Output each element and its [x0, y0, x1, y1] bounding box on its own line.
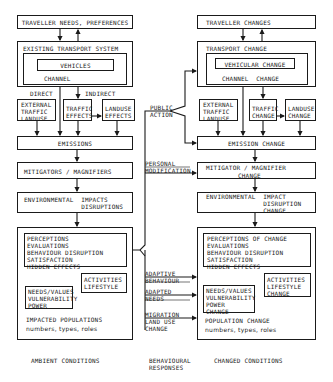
mitigator-change-label-2: CHANGE [238, 172, 261, 179]
right-external-traffic-landuse-box: EXTERNAL TRAFFIC LANDUSE [199, 99, 238, 121]
population-label: IMPACTED POPULATIONS [26, 316, 102, 323]
landuse-effects-box: LANDUSE EFFECTS [102, 99, 135, 121]
activities-change-label: ACTIVITIES LIFESTYLE CHANGE [267, 276, 305, 297]
mitigators-box: MITIGATORS / MAGNIFIERS [17, 162, 133, 179]
traveller-changes-box: TRAVELLER CHANGES [197, 15, 316, 29]
traffic-change-box: TRAFFIC CHANGE [249, 99, 277, 121]
adaptive-behaviour-label: ADAPTIVE BEHAVIOUR [145, 270, 179, 284]
needs-values-box: NEEDS/VALUES VULNERABILITY POWER [25, 286, 73, 309]
emission-change-box: EMISSION CHANGE [197, 136, 316, 150]
public-action-label: PUBLIC ACTION [150, 104, 173, 118]
population-change-box: PERCEPTIONS OF CHANGE EVALUATIONS BEHAVI… [197, 227, 316, 340]
existing-transport-title: EXISTING TRANSPORT SYSTEM [23, 45, 118, 52]
vehicles-label: VEHICLES [38, 62, 113, 69]
vehicular-change-label: VEHICULAR CHANGE [216, 61, 294, 68]
behavioural-responses-label: BEHAVIOURAL RESPONSES [149, 357, 191, 371]
mitigator-change-label: MITIGATOR / MAGNIFIER [206, 164, 286, 171]
environmental-impact-change-box: ENVIRONMENTAL IMPACT DISRUPTION CHANGE [197, 192, 316, 213]
landuse-effects-label: LANDUSE EFFECTS [105, 105, 132, 119]
perceptions-change-label: PERCEPTIONS OF CHANGE EVALUATIONS BEHAVI… [207, 235, 287, 270]
transport-change-box: TRANSPORT CHANGE VEHICULAR CHANGE CHANNE… [197, 41, 316, 87]
needs-values-change-label: NEEDS/VALUES VULNERABILITY POWER CHANGE [206, 287, 256, 315]
traffic-effects-label: TRAFFIC EFFECTS [66, 105, 93, 119]
mitigator-change-box: MITIGATOR / MAGNIFIER CHANGE [197, 162, 316, 179]
channel-change-box: VEHICULAR CHANGE CHANNEL CHANGE [206, 53, 308, 85]
activities-change-box: ACTIVITIES LIFESTYLE CHANGE [264, 273, 311, 297]
migration-label: MIGRATION LAND USE CHANGE [145, 311, 179, 332]
landuse-change-label: LANDUSE CHANGE [288, 105, 315, 119]
vehicles-box: VEHICLES [37, 59, 114, 71]
emission-change-label: EMISSION CHANGE [198, 140, 315, 147]
external-label: EXTERNAL TRAFFIC LANDUSE [21, 101, 52, 122]
perceptions-box: PERCEPTIONS EVALUATIONS BEHAVIOUR DISRUP… [24, 233, 127, 267]
changed-conditions-label: CHANGED CONDITIONS [214, 357, 283, 364]
direct-label: DIRECT [30, 90, 53, 97]
perceptions-label: PERCEPTIONS EVALUATIONS BEHAVIOUR DISRUP… [27, 235, 103, 270]
vehicular-change-box: VEHICULAR CHANGE [215, 58, 295, 69]
environmental-impacts-label: ENVIRONMENTAL IMPACTS DISRUPTIONS [24, 196, 123, 210]
emissions-label: EMISSIONS [18, 140, 132, 147]
mitigators-label: MITIGATORS / MAGNIFIERS [24, 168, 112, 175]
landuse-change-box: LANDUSE CHANGE [285, 99, 316, 121]
traveller-changes-label: TRAVELLER CHANGES [206, 19, 271, 26]
ambient-conditions-label: AMBIENT CONDITIONS [31, 357, 100, 364]
channel-label: CHANNEL [44, 75, 71, 82]
external-traffic-landuse-box: EXTERNAL TRAFFIC LANDUSE [17, 99, 56, 121]
environmental-impacts-box: ENVIRONMENTAL IMPACTS DISRUPTIONS [17, 192, 133, 213]
transport-change-title: TRANSPORT CHANGE [206, 45, 267, 52]
traffic-effects-box: TRAFFIC EFFECTS [63, 99, 92, 121]
emissions-box: EMISSIONS [17, 136, 133, 150]
existing-transport-box: EXISTING TRANSPORT SYSTEM VEHICLES CHANN… [17, 41, 133, 87]
adapted-needs-label: ADAPTED NEEDS [145, 288, 172, 302]
personal-modification-label: PERSONAL MODIFICATION [145, 160, 191, 174]
needs-values-change-box: NEEDS/VALUES VULNERABILITY POWER CHANGE [203, 285, 255, 313]
environmental-impact-change-label: ENVIRONMENTAL IMPACT DISRUPTION CHANGE [206, 193, 301, 214]
population-sub-label: numbers, types, roles [26, 325, 98, 332]
population-change-sub-label: numbers, types, roles [205, 326, 277, 333]
impacted-populations-box: PERCEPTIONS EVALUATIONS BEHAVIOUR DISRUP… [17, 227, 133, 340]
needs-values-label: NEEDS/VALUES VULNERABILITY POWER [28, 288, 78, 309]
traffic-change-label: TRAFFIC CHANGE [252, 105, 279, 119]
right-external-label: EXTERNAL TRAFFIC LANDUSE [203, 101, 234, 122]
activities-box: ACTIVITIES LIFESTYLE [81, 273, 127, 293]
channel-box: VEHICLES CHANNEL [23, 53, 127, 85]
traveller-needs-box: TRAVELLER NEEDS, PREFERENCES [17, 15, 133, 29]
perceptions-change-box: PERCEPTIONS OF CHANGE EVALUATIONS BEHAVI… [203, 233, 311, 267]
traveller-needs-label: TRAVELLER NEEDS, PREFERENCES [18, 19, 132, 26]
population-change-label: POPULATION CHANGE [205, 317, 270, 324]
channel-change-label: CHANNEL CHANGE [222, 75, 279, 82]
indirect-label: INDIRECT [85, 90, 116, 97]
activities-label: ACTIVITIES LIFESTYLE [84, 276, 122, 290]
